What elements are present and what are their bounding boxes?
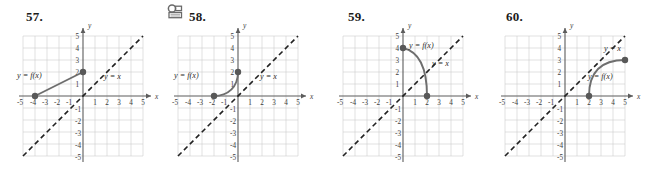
graph-58: -5 -4 -3 -2 -1 1 2 3 4 5 5 4 3 2 1 -1 -2… <box>155 0 320 169</box>
endpoint-dot <box>586 93 592 99</box>
svg-text:-1: -1 <box>66 99 72 107</box>
function-label-57: y = f(x) <box>16 71 42 80</box>
svg-text:5: 5 <box>141 99 145 107</box>
svg-text:2: 2 <box>230 69 234 77</box>
function-label-58: y = f(x) <box>173 71 199 80</box>
svg-text:-5: -5 <box>337 99 343 107</box>
svg-text:2: 2 <box>557 69 561 77</box>
svg-text:-2: -2 <box>374 99 380 107</box>
svg-text:4: 4 <box>284 99 288 107</box>
svg-text:-2: -2 <box>75 118 81 126</box>
svg-text:-1: -1 <box>386 99 392 107</box>
graph-60: -5 -4 -3 -2 -1 1 2 3 4 5 5 4 3 2 1 -1 -2… <box>482 0 647 169</box>
identity-label-60: y = x <box>603 44 621 53</box>
svg-text:-4: -4 <box>557 142 563 150</box>
svg-text:1: 1 <box>248 99 252 107</box>
svg-text:5: 5 <box>75 33 79 41</box>
endpoint-dot <box>424 93 430 99</box>
x-axis-label-58: x <box>309 92 314 101</box>
svg-text:-3: -3 <box>230 130 236 138</box>
svg-text:-1: -1 <box>395 106 401 114</box>
svg-text:-5: -5 <box>395 154 401 162</box>
svg-text:3: 3 <box>230 57 234 65</box>
svg-text:5: 5 <box>623 99 627 107</box>
svg-text:-2: -2 <box>395 118 401 126</box>
exercise-panel-60: 60. <box>482 0 647 169</box>
endpoint-dot <box>80 69 86 75</box>
svg-text:-3: -3 <box>557 130 563 138</box>
svg-text:3: 3 <box>437 99 441 107</box>
svg-text:3: 3 <box>272 99 276 107</box>
x-axis-label-60: x <box>636 92 641 101</box>
svg-text:4: 4 <box>395 45 399 53</box>
svg-text:-5: -5 <box>230 154 236 162</box>
svg-text:-1: -1 <box>230 106 236 114</box>
svg-text:3: 3 <box>117 99 121 107</box>
svg-text:5: 5 <box>557 33 561 41</box>
svg-text:-4: -4 <box>230 142 236 150</box>
graph-59: -5 -4 -3 -2 -1 1 2 3 4 5 5 4 3 2 1 -1 -2… <box>320 0 485 169</box>
svg-text:2: 2 <box>587 99 591 107</box>
svg-text:-1: -1 <box>548 99 554 107</box>
svg-text:-2: -2 <box>536 99 542 107</box>
svg-text:-5: -5 <box>499 99 505 107</box>
svg-text:4: 4 <box>129 99 133 107</box>
svg-text:-5: -5 <box>75 154 81 162</box>
svg-text:-2: -2 <box>557 118 563 126</box>
svg-text:1: 1 <box>413 99 417 107</box>
svg-text:2: 2 <box>425 99 429 107</box>
function-label-59: y = f(x) <box>408 41 434 50</box>
svg-text:5: 5 <box>461 99 465 107</box>
svg-text:-1: -1 <box>221 99 227 107</box>
svg-text:-2: -2 <box>54 99 60 107</box>
svg-text:-5: -5 <box>557 154 563 162</box>
graph-svg-57: -5 -4 -3 -2 -1 1 2 3 4 5 5 4 3 2 1 -1 -2… <box>0 0 165 169</box>
exercise-panel-59: 59. <box>320 0 485 169</box>
svg-text:2: 2 <box>395 69 399 77</box>
svg-text:-3: -3 <box>362 99 368 107</box>
svg-text:1: 1 <box>93 99 97 107</box>
graph-svg-60: -5 -4 -3 -2 -1 1 2 3 4 5 5 4 3 2 1 -1 -2… <box>482 0 649 169</box>
svg-text:-3: -3 <box>524 99 530 107</box>
svg-text:5: 5 <box>230 33 234 41</box>
y-axis-label-58: y <box>242 21 247 30</box>
endpoint-dot <box>622 57 628 63</box>
y-axis-label-57: y <box>87 21 92 30</box>
svg-text:-5: -5 <box>17 99 23 107</box>
svg-text:1: 1 <box>557 81 561 89</box>
svg-text:3: 3 <box>395 57 399 65</box>
svg-text:-3: -3 <box>395 130 401 138</box>
svg-text:5: 5 <box>296 99 300 107</box>
svg-text:3: 3 <box>599 99 603 107</box>
svg-text:1: 1 <box>575 99 579 107</box>
svg-text:1: 1 <box>75 81 79 89</box>
svg-text:-3: -3 <box>75 130 81 138</box>
svg-text:-4: -4 <box>75 142 81 150</box>
x-axis-label-59: x <box>474 92 479 101</box>
svg-text:-4: -4 <box>185 99 191 107</box>
svg-text:1: 1 <box>395 81 399 89</box>
exercise-panel-58: 58. <box>155 0 320 169</box>
svg-text:-1: -1 <box>75 106 81 114</box>
svg-text:-3: -3 <box>197 99 203 107</box>
svg-text:-4: -4 <box>30 99 36 107</box>
endpoint-dot <box>400 45 406 51</box>
svg-text:-3: -3 <box>42 99 48 107</box>
svg-text:4: 4 <box>75 45 79 53</box>
svg-text:4: 4 <box>611 99 615 107</box>
svg-text:-2: -2 <box>209 99 215 107</box>
graph-svg-58: -5 -4 -3 -2 -1 1 2 3 4 5 5 4 3 2 1 -1 -2… <box>155 0 320 169</box>
svg-text:3: 3 <box>75 57 79 65</box>
identity-label-58: y = x <box>259 72 277 81</box>
exercise-panel-57: 57. <box>0 0 165 169</box>
graph-svg-59: -5 -4 -3 -2 -1 1 2 3 4 5 5 4 3 2 1 -1 -2… <box>320 0 485 169</box>
svg-text:-2: -2 <box>230 118 236 126</box>
graph-57: -5 -4 -3 -2 -1 1 2 3 4 5 5 4 3 2 1 -1 -2… <box>0 0 165 169</box>
svg-text:4: 4 <box>449 99 453 107</box>
svg-text:-4: -4 <box>350 99 356 107</box>
svg-text:-4: -4 <box>512 99 518 107</box>
svg-text:4: 4 <box>557 45 561 53</box>
endpoint-dot <box>211 93 217 99</box>
y-axis-label-60: y <box>569 21 574 30</box>
y-axis-label-59: y <box>407 21 412 30</box>
